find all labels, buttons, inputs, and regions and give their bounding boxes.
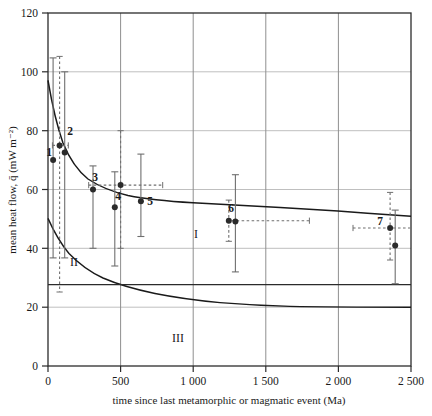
point-label-4: 4 (115, 190, 121, 202)
data-point-1-dashed (57, 142, 63, 148)
data-point-3-solid (90, 187, 96, 193)
data-point-5-solid (138, 198, 144, 204)
xtick-label-1500: 1 500 (253, 375, 279, 387)
point-label-2: 2 (67, 125, 73, 137)
data-point-2-solid (62, 150, 68, 156)
point-label-6: 6 (228, 202, 234, 214)
heat-flow-chart-figure: 0 20 40 60 80 100 120 0 500 1 000 1 500 … (0, 0, 432, 416)
ytick-label-60: 60 (27, 184, 39, 196)
ytick-label-100: 100 (21, 66, 39, 78)
data-point-4-solid (112, 204, 118, 210)
y-axis-title: mean heat flow, q̄ (mW m⁻²) (6, 126, 19, 254)
point-label-7: 7 (377, 215, 383, 227)
ytick-label-40: 40 (27, 243, 39, 255)
xtick-label-2000: 2 000 (325, 375, 351, 387)
data-point-7-dashed (387, 225, 393, 231)
point-label-3: 3 (92, 171, 98, 183)
ytick-label-0: 0 (32, 360, 38, 372)
x-axis-title: time since last metamorphic or magmatic … (112, 394, 345, 407)
region-label-II: II (70, 255, 78, 269)
ytick-label-20: 20 (27, 301, 39, 313)
data-point-6-dashed (226, 218, 232, 224)
chart-canvas: 0 20 40 60 80 100 120 0 500 1 000 1 500 … (0, 0, 432, 416)
point-label-5: 5 (147, 195, 153, 207)
region-label-I: I (194, 227, 198, 241)
data-point-7-solid (392, 242, 398, 248)
region-label-III: III (172, 331, 184, 345)
xtick-label-2500: 2 500 (398, 375, 424, 387)
data-point-3-dashed (118, 182, 124, 188)
xtick-label-1000: 1 000 (180, 375, 206, 387)
xtick-label-0: 0 (45, 375, 51, 387)
point-label-1: 1 (46, 146, 52, 158)
xtick-label-500: 500 (112, 375, 130, 387)
ytick-label-120: 120 (21, 7, 39, 19)
ytick-label-80: 80 (27, 125, 39, 137)
data-point-6-solid (232, 219, 238, 225)
